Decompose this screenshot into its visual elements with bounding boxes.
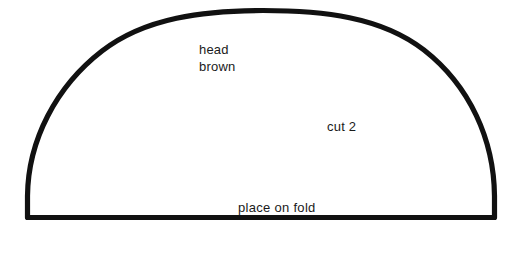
label-piece-name-and-color: head brown	[199, 41, 235, 75]
pattern-sheet: head brown cut 2 place on fold	[0, 0, 521, 264]
label-piece-name: head	[199, 41, 235, 58]
label-fold-instruction: place on fold	[238, 199, 316, 216]
label-cut-instruction: cut 2	[327, 118, 356, 135]
pattern-piece-outline	[28, 11, 495, 218]
label-piece-color: brown	[199, 58, 235, 75]
pattern-outline-drawing	[0, 0, 521, 264]
